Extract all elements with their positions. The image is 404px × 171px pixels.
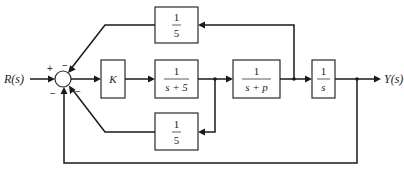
upper-feedback-denominator: 5 bbox=[174, 27, 180, 39]
upper-feedback-numerator: 1 bbox=[174, 11, 180, 23]
g1-block: 1 s + 5 bbox=[155, 60, 198, 98]
sign-bottom-minus: − bbox=[50, 88, 56, 99]
g2-numerator: 1 bbox=[254, 65, 260, 77]
wire-g2-to-integrator bbox=[280, 76, 312, 83]
g1-denominator: s + 5 bbox=[165, 81, 188, 93]
g2-block: 1 s + p bbox=[233, 60, 280, 98]
sign-lower-inner-minus: − bbox=[75, 86, 81, 97]
integrator-block: 1 s bbox=[312, 60, 335, 98]
lower-feedback-denominator: 5 bbox=[174, 134, 180, 146]
lower-feedback-path bbox=[198, 79, 215, 136]
integrator-denominator: s bbox=[321, 81, 325, 93]
input-label: R(s) bbox=[3, 72, 24, 86]
input-wire bbox=[30, 76, 55, 83]
sign-top-minus: − bbox=[62, 60, 68, 71]
summing-junction bbox=[55, 71, 71, 87]
integrator-numerator: 1 bbox=[321, 65, 327, 77]
g1-numerator: 1 bbox=[174, 65, 180, 77]
output-label: Y(s) bbox=[384, 72, 403, 86]
wire-summer-to-gain bbox=[71, 76, 101, 83]
wire-to-output bbox=[335, 76, 381, 83]
g2-denominator: s + p bbox=[245, 81, 268, 93]
sign-input-plus: + bbox=[47, 63, 53, 74]
lower-feedback-numerator: 1 bbox=[174, 118, 180, 130]
block-diagram: R(s) + − − − K 1 s + 5 1 s + bbox=[0, 0, 404, 171]
gain-label: K bbox=[108, 73, 117, 85]
wire-gain-to-g1 bbox=[125, 76, 155, 83]
gain-block: K bbox=[101, 60, 125, 98]
upper-feedback-block: 1 5 bbox=[155, 7, 198, 43]
lower-feedback-block: 1 5 bbox=[155, 113, 198, 150]
